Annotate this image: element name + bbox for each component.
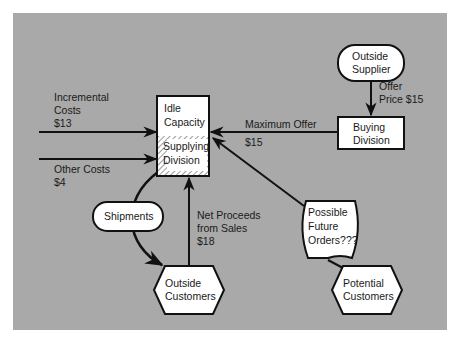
shipments-node[interactable]: Shipments xyxy=(93,202,163,231)
supplying-division-label: Supplying xyxy=(163,140,209,152)
svg-text:Division: Division xyxy=(353,134,390,146)
svg-text:Incremental: Incremental xyxy=(54,91,109,103)
svg-text:Maximum Offer: Maximum Offer xyxy=(245,118,317,130)
supplying-division-node[interactable]: Idle Capacity Supplying Division xyxy=(157,96,209,176)
svg-text:Supplier: Supplier xyxy=(352,63,391,75)
svg-text:Buying: Buying xyxy=(353,121,385,133)
transfer-pricing-diagram: Incremental Costs $13 Other Costs $4 Max… xyxy=(0,0,457,344)
idle-capacity-label: Idle xyxy=(164,102,181,114)
svg-text:$4: $4 xyxy=(54,176,66,188)
svg-text:Future: Future xyxy=(308,220,339,232)
svg-text:Orders???: Orders??? xyxy=(308,234,358,246)
svg-text:$13: $13 xyxy=(54,117,72,129)
svg-text:Shipments: Shipments xyxy=(104,210,154,222)
svg-text:Other Costs: Other Costs xyxy=(54,163,110,175)
supplying-division-label: Division xyxy=(163,154,200,166)
outside-customers-node[interactable]: Outside Customers xyxy=(154,266,224,314)
svg-text:from Sales: from Sales xyxy=(197,222,247,234)
svg-text:Customers: Customers xyxy=(343,290,394,302)
svg-text:Possible: Possible xyxy=(308,206,348,218)
potential-customers-node[interactable]: Potential Customers xyxy=(332,266,402,314)
outside-supplier-node[interactable]: Outside Supplier xyxy=(338,45,404,81)
svg-text:$18: $18 xyxy=(197,235,215,247)
svg-text:$15: $15 xyxy=(245,136,263,148)
possible-future-orders-node[interactable]: Possible Future Orders??? xyxy=(302,201,357,258)
svg-text:Outside: Outside xyxy=(165,277,201,289)
svg-text:Price $15: Price $15 xyxy=(379,93,424,105)
buying-division-node[interactable]: Buying Division xyxy=(338,117,404,149)
svg-text:Costs: Costs xyxy=(54,104,81,116)
svg-text:Net Proceeds: Net Proceeds xyxy=(197,209,261,221)
svg-text:Customers: Customers xyxy=(165,290,216,302)
svg-text:Outside: Outside xyxy=(352,50,388,62)
svg-text:Potential: Potential xyxy=(343,277,384,289)
idle-capacity-label: Capacity xyxy=(164,116,206,128)
